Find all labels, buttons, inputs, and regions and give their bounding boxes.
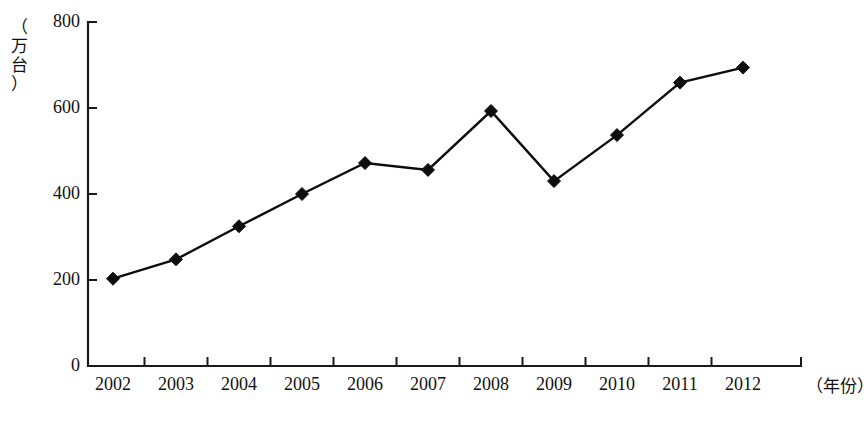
- x-tick-label: 2010: [582, 375, 652, 393]
- y-tick-label: 400: [18, 184, 80, 202]
- line-chart: （ 万 台 ） （年份） 020040060080020022003200420…: [0, 0, 868, 430]
- data-point-marker: [107, 272, 120, 285]
- y-tick-label: 800: [18, 12, 80, 30]
- x-tick-label: 2002: [78, 375, 148, 393]
- x-tick-label: 2003: [141, 375, 211, 393]
- x-tick-label: 2004: [204, 375, 274, 393]
- data-point-marker: [737, 61, 750, 74]
- data-point-marker: [359, 157, 372, 170]
- x-tick-label: 2005: [267, 375, 337, 393]
- data-point-marker: [296, 188, 309, 201]
- x-tick-label: 2012: [708, 375, 778, 393]
- x-tick-label: 2011: [645, 375, 715, 393]
- x-tick-label: 2009: [519, 375, 589, 393]
- x-tick-label: 2007: [393, 375, 463, 393]
- axis-lines: [88, 22, 801, 366]
- x-tick-label: 2006: [330, 375, 400, 393]
- y-tick-label: 0: [18, 356, 80, 374]
- y-tick-label: 600: [18, 98, 80, 116]
- plot-area: [0, 0, 868, 430]
- x-tick-label: 2008: [456, 375, 526, 393]
- data-point-marker: [233, 220, 246, 233]
- data-point-marker: [170, 253, 183, 266]
- y-tick-label: 200: [18, 270, 80, 288]
